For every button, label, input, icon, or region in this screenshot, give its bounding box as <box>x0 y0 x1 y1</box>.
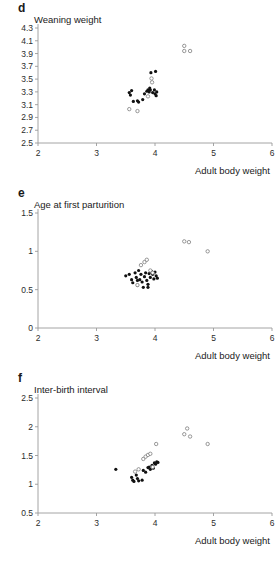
data-point <box>143 92 146 95</box>
panel-d: d Weaning weight 2.52.72.93.13.33.53.73.… <box>0 0 278 185</box>
data-point <box>144 271 147 274</box>
y-tick-label: 3.9 <box>21 49 33 59</box>
data-point <box>146 283 149 286</box>
figure-panels-def: d Weaning weight 2.52.72.93.13.33.53.73.… <box>0 0 278 568</box>
data-point <box>130 89 133 92</box>
data-point <box>188 49 191 52</box>
axis-spine <box>38 394 272 513</box>
data-point <box>145 258 148 261</box>
data-point <box>132 480 135 483</box>
scatter-plot-f: 0.511.522.523456 <box>0 370 278 535</box>
y-tick-label: 1 <box>28 479 33 489</box>
data-point <box>150 77 153 80</box>
y-tick-label: 2.7 <box>21 125 33 135</box>
data-point <box>124 274 127 277</box>
y-tick-label: 3.3 <box>21 87 33 97</box>
x-tick-label: 5 <box>211 148 216 158</box>
data-point <box>152 277 155 280</box>
data-point <box>133 470 136 473</box>
data-point <box>183 49 186 52</box>
data-point <box>141 98 144 101</box>
data-point <box>141 280 144 283</box>
data-point <box>134 271 137 274</box>
data-point <box>149 71 152 74</box>
x-tick-label: 6 <box>270 148 275 158</box>
x-tick-label: 2 <box>36 518 41 528</box>
data-point <box>155 90 158 93</box>
xaxis-label-f: Adult body weight <box>195 536 270 546</box>
data-point <box>130 476 133 479</box>
y-tick-label: 0.5 <box>21 508 33 518</box>
data-point <box>154 70 157 73</box>
x-tick-label: 6 <box>270 518 275 528</box>
data-point <box>183 44 186 47</box>
x-tick-label: 4 <box>153 148 158 158</box>
data-point <box>137 101 140 104</box>
y-tick-label: 3.1 <box>21 100 33 110</box>
y-tick-label: 1.5 <box>21 451 33 461</box>
x-tick-label: 3 <box>94 518 99 528</box>
data-point <box>136 109 139 112</box>
data-point <box>155 94 158 97</box>
data-point <box>142 286 145 289</box>
y-tick-label: 2.5 <box>21 138 33 148</box>
data-point <box>206 442 209 445</box>
data-point <box>135 276 138 279</box>
x-tick-label: 3 <box>94 333 99 343</box>
y-tick-label: 0.5 <box>21 285 33 295</box>
panel-f: f Inter-birth interval 0.511.522.523456 … <box>0 370 278 568</box>
data-point <box>128 107 131 110</box>
x-tick-label: 6 <box>270 333 275 343</box>
data-point <box>136 283 139 286</box>
x-tick-label: 2 <box>36 333 41 343</box>
axis-spine <box>38 24 272 143</box>
data-point <box>139 273 142 276</box>
y-tick-label: 4.1 <box>21 36 33 46</box>
data-point <box>130 278 133 281</box>
plot-area-d: 2.52.72.93.13.33.53.73.94.14.323456 <box>0 0 278 185</box>
data-point <box>206 250 209 253</box>
scatter-plot-e: 00.511.523456 <box>0 185 278 350</box>
data-point <box>149 452 152 455</box>
data-point <box>137 269 140 272</box>
x-tick-label: 2 <box>36 148 41 158</box>
data-point <box>149 276 152 279</box>
data-point <box>154 442 157 445</box>
xaxis-label-d: Adult body weight <box>195 166 270 176</box>
y-tick-label: 3.5 <box>21 74 33 84</box>
data-point <box>183 240 186 243</box>
data-point <box>156 461 159 464</box>
data-point <box>131 281 134 284</box>
data-point <box>151 465 154 468</box>
data-point <box>188 435 191 438</box>
data-point <box>183 433 186 436</box>
x-tick-label: 5 <box>211 518 216 528</box>
data-point <box>150 81 153 84</box>
plot-area-e: 00.511.523456 <box>0 185 278 370</box>
data-point <box>137 479 140 482</box>
xaxis-label-e: Adult body weight <box>195 351 270 361</box>
data-point <box>185 427 188 430</box>
data-point <box>141 479 144 482</box>
data-point <box>129 93 132 96</box>
data-point <box>156 277 159 280</box>
y-tick-label: 2.9 <box>21 112 33 122</box>
data-point <box>137 468 140 471</box>
axis-spine <box>38 209 272 328</box>
data-point <box>149 88 152 91</box>
data-point <box>146 95 149 98</box>
y-tick-label: 3.7 <box>21 61 33 71</box>
y-tick-label: 2.5 <box>21 393 33 403</box>
x-tick-label: 5 <box>211 333 216 343</box>
y-tick-label: 1 <box>28 246 33 256</box>
y-tick-label: 0 <box>28 323 33 333</box>
y-tick-label: 4.3 <box>21 23 33 33</box>
y-tick-label: 2 <box>28 422 33 432</box>
scatter-plot-d: 2.52.72.93.13.33.53.73.94.14.323456 <box>0 0 278 165</box>
data-point <box>143 275 146 278</box>
data-point <box>132 100 135 103</box>
data-point <box>136 279 139 282</box>
data-point <box>146 286 149 289</box>
y-tick-label: 1.5 <box>21 208 33 218</box>
series-open <box>133 427 209 474</box>
